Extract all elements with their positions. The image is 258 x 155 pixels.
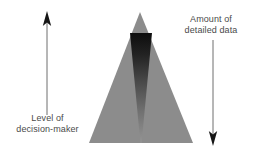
right-axis-arrow: [209, 40, 217, 146]
diagram-canvas: Level of decision-maker Amount of detail…: [0, 0, 258, 155]
left-axis-label: Level of decision-maker: [0, 113, 95, 135]
right-axis-label-line2: detailed data: [165, 25, 257, 36]
left-axis-arrow: [43, 11, 51, 115]
left-axis-label-line1: Level of: [0, 113, 95, 124]
right-axis-label-line1: Amount of: [165, 14, 257, 25]
left-axis-label-line2: decision-maker: [0, 124, 95, 135]
right-axis-label: Amount of detailed data: [165, 14, 257, 36]
